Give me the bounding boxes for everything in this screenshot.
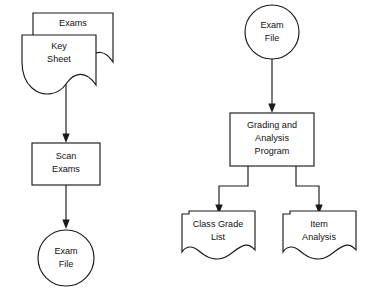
exam-file-left-label-line-2: File bbox=[59, 259, 74, 269]
node-grading-program: Grading and Analysis Program bbox=[230, 113, 314, 166]
flowchart-canvas: Exams Key Sheet Scan Exams Exam Fil bbox=[0, 0, 371, 295]
grading-program-label-line-1: Grading and bbox=[247, 120, 297, 130]
scan-exams-label-line-1: Scan bbox=[56, 151, 77, 161]
edge-examfile-to-grading bbox=[268, 59, 275, 113]
exam-file-right-circle-shape bbox=[245, 5, 299, 59]
scan-exams-label-line-2: Exams bbox=[52, 164, 80, 174]
node-key-sheet: Key Sheet bbox=[22, 35, 96, 94]
grading-program-label-line-2: Analysis bbox=[255, 133, 289, 143]
edge-scan-to-examfile-arrowhead bbox=[62, 220, 69, 230]
grading-program-label-line-3: Program bbox=[255, 146, 290, 156]
edge-grading-to-classgrade bbox=[215, 166, 248, 214]
node-exam-file-right: Exam File bbox=[245, 5, 299, 59]
exam-file-right-label-line-2: File bbox=[265, 33, 280, 43]
edge-scan-to-examfile bbox=[62, 185, 69, 229]
edge-examfile-to-grading-arrowhead bbox=[268, 104, 275, 114]
key-sheet-label-line-2: Sheet bbox=[47, 54, 71, 64]
edge-grading-to-itemanalysis bbox=[296, 166, 323, 214]
exams-label-line-1: Exams bbox=[59, 18, 87, 28]
node-scan-exams: Scan Exams bbox=[32, 143, 100, 185]
edge-grading-to-classgrade-line bbox=[219, 166, 248, 207]
edge-grading-to-itemanalysis-line bbox=[296, 166, 319, 207]
class-grade-list-label-line-1: Class Grade bbox=[193, 219, 244, 229]
exam-file-left-label-line-1: Exam bbox=[54, 246, 77, 256]
item-analysis-label-line-2: Analysis bbox=[302, 232, 336, 242]
edge-keysheet-to-scan bbox=[62, 84, 69, 143]
flowchart-diagram: Exams Key Sheet Scan Exams Exam Fil bbox=[0, 0, 371, 295]
node-class-grade-list: Class Grade List bbox=[182, 211, 255, 259]
node-item-analysis: Item Analysis bbox=[283, 211, 356, 259]
item-analysis-label-line-1: Item bbox=[310, 219, 328, 229]
node-exam-file-left: Exam File bbox=[38, 230, 94, 286]
exam-file-left-circle-shape bbox=[38, 230, 94, 286]
edge-keysheet-to-scan-arrowhead bbox=[62, 134, 69, 144]
exam-file-right-label-line-1: Exam bbox=[260, 20, 283, 30]
key-sheet-label-line-1: Key bbox=[51, 41, 67, 51]
class-grade-list-label-line-2: List bbox=[211, 232, 226, 242]
